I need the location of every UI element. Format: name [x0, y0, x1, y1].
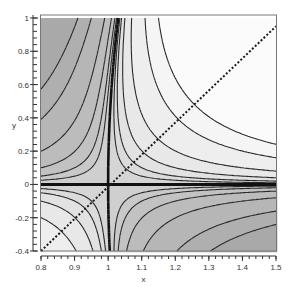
y-tick-label: -0.2: [15, 214, 29, 223]
y-axis: -0.4-0.200.20.40.60.81: [15, 14, 38, 256]
x-tick-label: 1.4: [237, 263, 249, 272]
x-axis: 0.80.911.11.21.31.41.5: [35, 256, 282, 272]
contour-chart: 0.80.911.11.21.31.41.5 -0.4-0.200.20.40.…: [0, 0, 296, 299]
x-tick-label: 1.2: [170, 263, 182, 272]
x-tick-label: 1: [106, 263, 111, 272]
x-tick-label: 1.3: [203, 263, 215, 272]
y-tick-label: 0: [25, 180, 30, 189]
x-axis-label: x: [142, 275, 146, 284]
y-tick-label: 0.8: [18, 47, 30, 56]
y-tick-label: -0.4: [15, 247, 29, 256]
y-tick-label: 0.4: [18, 114, 30, 123]
x-tick-label: 0.8: [35, 263, 47, 272]
y-axis-label: y: [12, 121, 16, 130]
x-tick-label: 0.9: [69, 263, 81, 272]
y-tick-label: 0.2: [18, 147, 30, 156]
x-tick-label: 1.5: [270, 263, 282, 272]
y-tick-label: 0.6: [18, 81, 30, 90]
y-tick-label: 1: [25, 14, 30, 23]
x-tick-label: 1.1: [136, 263, 148, 272]
